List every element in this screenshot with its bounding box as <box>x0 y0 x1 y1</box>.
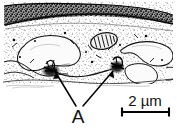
structure-label-a: A <box>72 106 85 127</box>
micrograph-figure: A 2 µm <box>0 0 177 129</box>
micrograph-field <box>3 2 177 85</box>
micrograph-canvas: A 2 µm <box>0 0 177 129</box>
scale-bar-label: 2 µm <box>128 92 162 109</box>
